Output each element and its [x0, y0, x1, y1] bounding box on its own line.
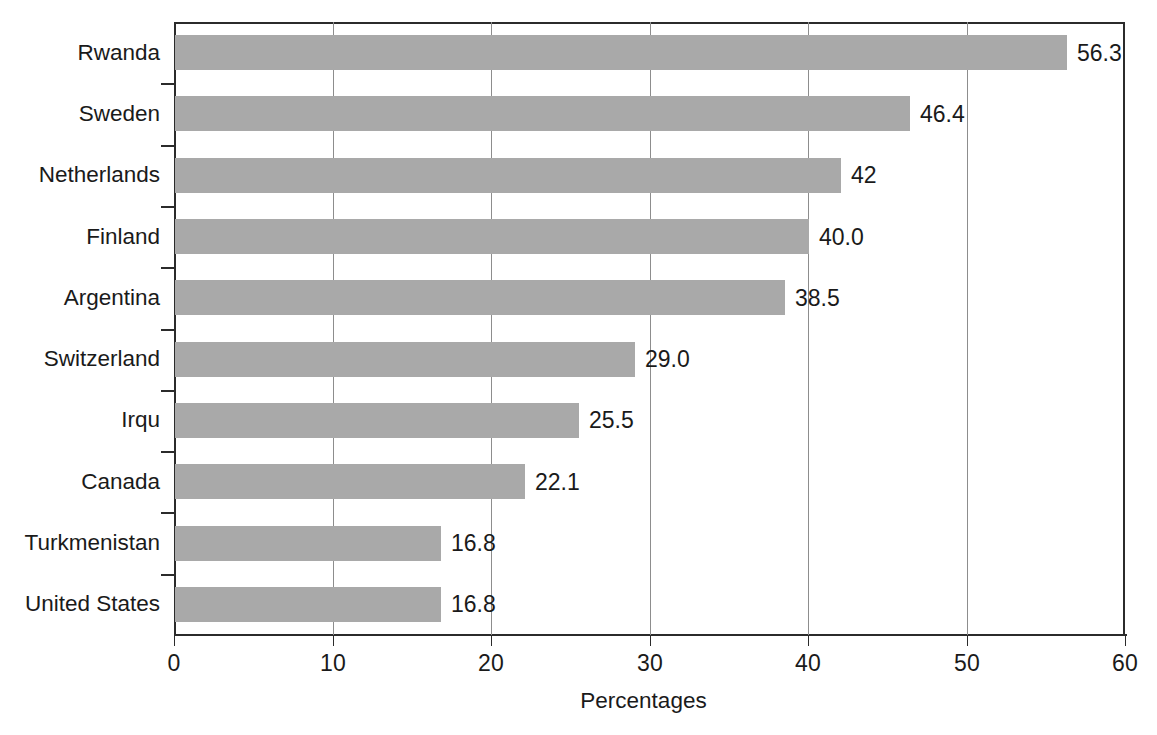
bar-united-states[interactable]: [175, 587, 441, 622]
category-label-sweden: Sweden: [79, 103, 160, 126]
x-tick-60: [1125, 635, 1126, 646]
value-label-finland: 40.0: [819, 226, 864, 249]
x-tick-40: [808, 635, 809, 646]
category-label-argentina: Argentina: [64, 287, 160, 310]
y-tick-2: [161, 145, 175, 147]
x-tick-label-60: 60: [1112, 650, 1138, 677]
y-tick-7: [161, 451, 175, 453]
y-tick-3: [161, 206, 175, 208]
bar-netherlands[interactable]: [175, 158, 841, 193]
y-tick-6: [161, 390, 175, 392]
bar-irqu[interactable]: [175, 403, 579, 438]
bar-canada[interactable]: [175, 464, 525, 499]
y-tick-5: [161, 329, 175, 331]
gridline-50: [967, 22, 968, 635]
category-label-united-states: United States: [25, 593, 160, 616]
x-axis-title: Percentages: [0, 688, 1157, 714]
y-tick-1: [161, 83, 175, 85]
y-tick-4: [161, 267, 175, 269]
category-label-turkmenistan: Turkmenistan: [25, 532, 160, 555]
value-label-turkmenistan: 16.8: [451, 532, 496, 555]
x-tick-label-30: 30: [637, 650, 663, 677]
x-tick-label-0: 0: [168, 650, 181, 677]
category-label-switzerland: Switzerland: [44, 348, 160, 371]
value-label-sweden: 46.4: [920, 103, 965, 126]
x-tick-label-40: 40: [795, 650, 821, 677]
x-tick-0: [174, 635, 175, 646]
bar-sweden[interactable]: [175, 96, 910, 131]
value-label-canada: 22.1: [535, 471, 580, 494]
x-tick-label-20: 20: [478, 650, 504, 677]
category-label-netherlands: Netherlands: [39, 164, 160, 187]
value-label-irqu: 25.5: [589, 409, 634, 432]
bar-chart: 0102030405060 RwandaSwedenNetherlandsFin…: [0, 0, 1157, 735]
bar-argentina[interactable]: [175, 280, 785, 315]
x-tick-50: [967, 635, 968, 646]
x-axis-title-text: Percentages: [580, 688, 706, 714]
bar-turkmenistan[interactable]: [175, 526, 441, 561]
x-tick-label-10: 10: [320, 650, 346, 677]
bar-finland[interactable]: [175, 219, 809, 254]
y-tick-9: [161, 574, 175, 576]
bar-rwanda[interactable]: [175, 35, 1067, 70]
value-label-switzerland: 29.0: [645, 348, 690, 371]
x-tick-label-50: 50: [954, 650, 980, 677]
category-label-rwanda: Rwanda: [77, 42, 160, 65]
category-label-canada: Canada: [81, 471, 160, 494]
value-label-united-states: 16.8: [451, 593, 496, 616]
y-tick-8: [161, 512, 175, 514]
x-tick-10: [333, 635, 334, 646]
x-tick-30: [650, 635, 651, 646]
category-label-finland: Finland: [86, 226, 160, 249]
category-label-irqu: Irqu: [121, 409, 160, 432]
value-label-argentina: 38.5: [795, 287, 840, 310]
value-label-netherlands: 42: [851, 164, 877, 187]
bar-switzerland[interactable]: [175, 342, 635, 377]
value-label-rwanda: 56.3: [1077, 42, 1122, 65]
x-tick-20: [491, 635, 492, 646]
